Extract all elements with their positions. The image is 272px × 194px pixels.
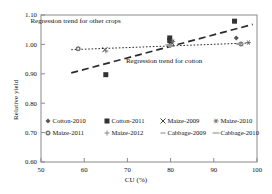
point-cotton-2011 — [103, 72, 108, 77]
point-maize-2010 — [246, 40, 251, 44]
legend-label-cotton-2011: Cotton-2011 — [112, 117, 145, 124]
point-cotton-2011 — [232, 19, 237, 24]
annotation-cotton-label: Regression trend for cotton — [126, 57, 203, 65]
legend-marker-maize-2011 — [46, 131, 51, 136]
marker-square — [103, 72, 108, 77]
legend-label-maize-2011: Maize-2011 — [53, 129, 85, 136]
y-tick-label: 0.90 — [25, 70, 37, 77]
legend-label-cotton-2010: Cotton-2010 — [53, 117, 87, 124]
plot-frame — [41, 15, 257, 162]
legend-marker-maize-2012 — [105, 131, 110, 136]
y-tick-label: 0.80 — [25, 100, 37, 107]
chart-figure: 50607080901000.600.700.800.901.001.10Reg… — [0, 0, 272, 194]
marker-diamond — [234, 35, 239, 40]
marker-circle-inner — [77, 48, 79, 50]
marker-diamond — [46, 119, 51, 124]
legend-marker-maize-2010 — [214, 119, 219, 123]
y-axis-title: Relative yield — [12, 80, 20, 120]
x-tick-label: 60 — [81, 166, 88, 173]
legend-marker-maize-2009 — [161, 119, 166, 124]
legend-label-maize-2009: Maize-2009 — [168, 117, 201, 124]
y-tick-label: 0.60 — [25, 158, 37, 165]
marker-square — [232, 19, 237, 24]
scatter-chart: 50607080901000.600.700.800.901.001.10Reg… — [0, 0, 272, 194]
x-tick-label: 80 — [167, 166, 174, 173]
y-tick-label: 1.00 — [25, 41, 37, 48]
legend-marker-cotton-2011 — [105, 119, 110, 124]
legend-label-cabbage-2009: Cabbage-2009 — [168, 129, 207, 136]
x-tick-label: 70 — [124, 166, 131, 173]
x-tick-label: 50 — [38, 166, 45, 173]
x-tick-label: 100 — [252, 166, 263, 173]
marker-circle-inner — [47, 132, 49, 134]
point-maize-2011 — [76, 46, 81, 51]
legend-label-maize-2012: Maize-2012 — [112, 129, 144, 136]
annotation-other-crops-label: Regression trend for other crops — [30, 17, 120, 25]
marker-square — [105, 119, 110, 124]
legend-label-cabbage-2010: Cabbage-2010 — [221, 129, 260, 136]
legend-marker-cotton-2010 — [46, 119, 51, 124]
point-maize-2009 — [102, 47, 107, 52]
x-tick-label: 90 — [210, 166, 217, 173]
legend-label-maize-2010: Maize-2010 — [221, 117, 254, 124]
x-axis-title: CU (%) — [0, 176, 272, 184]
point-cotton-2010 — [234, 35, 239, 40]
y-tick-label: 0.70 — [25, 129, 37, 136]
